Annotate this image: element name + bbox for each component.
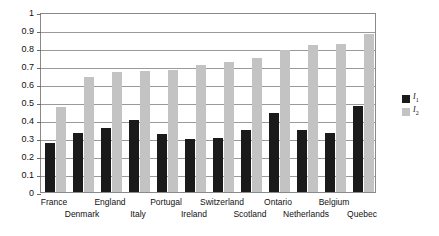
- category-label-portugal: Portugal: [150, 197, 182, 207]
- bar-i2-ontario: [280, 50, 290, 192]
- legend-item-2: I2: [402, 106, 436, 117]
- category-label-netherlands: Netherlands: [283, 209, 329, 219]
- legend-swatch-1: [402, 95, 410, 103]
- bar-group: [241, 14, 262, 192]
- legend-label-2: I2: [413, 106, 419, 117]
- bar-i1-belgium: [325, 133, 335, 192]
- bar-i2-scotland: [252, 58, 262, 192]
- bar-group: [73, 14, 94, 192]
- y-axis-tick-label: 0.5: [0, 99, 34, 108]
- bar-group: [297, 14, 318, 192]
- bar-i2-belgium: [336, 44, 346, 193]
- bar-i2-portugal: [168, 70, 178, 192]
- bar-i2-netherlands: [308, 45, 318, 192]
- legend-swatch-2: [402, 108, 410, 116]
- y-axis: 10.90.80.70.60.50.40.30.20.10: [0, 13, 36, 193]
- category-label-switzerland: Switzerland: [200, 197, 244, 207]
- category-label-belgium: Belgium: [319, 197, 350, 207]
- bar-group: [129, 14, 150, 192]
- y-axis-tick-label: 0.8: [0, 45, 34, 54]
- bar-group: [45, 14, 66, 192]
- y-axis-tick-label: 0.1: [0, 171, 34, 180]
- y-axis-tick-label: 0.9: [0, 27, 34, 36]
- bar-group: [353, 14, 374, 192]
- bar-i2-france: [56, 107, 66, 192]
- bar-i2-england: [112, 72, 122, 192]
- bar-i1-england: [101, 128, 111, 192]
- category-label-ontario: Ontario: [264, 197, 292, 207]
- category-label-quebec: Quebec: [347, 209, 377, 219]
- bar-i1-denmark: [73, 133, 83, 192]
- bar-group: [185, 14, 206, 192]
- bar-i2-quebec: [364, 34, 374, 192]
- bar-group: [157, 14, 178, 192]
- category-label-denmark: Denmark: [65, 209, 99, 219]
- bar-i2-ireland: [196, 65, 206, 192]
- legend: I1I2: [402, 93, 436, 119]
- legend-label-1: I1: [413, 93, 419, 104]
- bar-i1-ireland: [185, 139, 195, 192]
- bar-i1-quebec: [353, 106, 363, 192]
- category-label-italy: Italy: [130, 209, 146, 219]
- bar-group: [213, 14, 234, 192]
- y-axis-tick-label: 0.2: [0, 153, 34, 162]
- bar-i1-scotland: [241, 130, 251, 192]
- bar-chart: 10.90.80.70.60.50.40.30.20.10 FranceDenm…: [0, 0, 439, 236]
- category-label-ireland: Ireland: [181, 209, 207, 219]
- y-axis-tick-label: 1: [0, 9, 34, 18]
- bar-i1-netherlands: [297, 130, 307, 192]
- y-axis-tick-label: 0.3: [0, 135, 34, 144]
- bar-group: [269, 14, 290, 192]
- category-label-scotland: Scotland: [233, 209, 266, 219]
- y-axis-tick-label: 0.7: [0, 63, 34, 72]
- bar-i1-france: [45, 143, 55, 192]
- category-label-france: France: [41, 197, 67, 207]
- bar-i1-italy: [129, 120, 139, 192]
- y-axis-tick-label: 0.6: [0, 81, 34, 90]
- bar-i1-portugal: [157, 134, 167, 193]
- plot-area: [40, 13, 376, 193]
- bar-i1-switzerland: [213, 138, 223, 192]
- bar-group: [325, 14, 346, 192]
- category-label-england: England: [94, 197, 125, 207]
- x-axis-category-labels: FranceDenmarkEnglandItalyPortugalIreland…: [0, 196, 439, 232]
- legend-item-1: I1: [402, 93, 436, 104]
- bar-i1-ontario: [269, 113, 279, 192]
- y-axis-tick-label: 0.4: [0, 117, 34, 126]
- gridline: [41, 193, 375, 194]
- bar-i2-italy: [140, 71, 150, 193]
- bar-i2-switzerland: [224, 62, 234, 192]
- bar-group: [101, 14, 122, 192]
- bar-i2-denmark: [84, 77, 94, 192]
- bars-layer: [41, 14, 375, 192]
- y-axis-tick: [37, 194, 41, 195]
